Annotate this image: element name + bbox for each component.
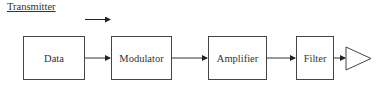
block-filter: Filter [296, 36, 334, 80]
block-data-label: Data [44, 53, 64, 64]
antenna-triangle-icon [346, 47, 371, 70]
block-modulator-label: Modulator [119, 53, 163, 64]
block-data: Data [23, 36, 85, 80]
block-amplifier-label: Amplifier [217, 53, 258, 64]
block-filter-label: Filter [304, 53, 327, 64]
block-modulator: Modulator [111, 36, 172, 80]
block-amplifier: Amplifier [208, 36, 267, 80]
